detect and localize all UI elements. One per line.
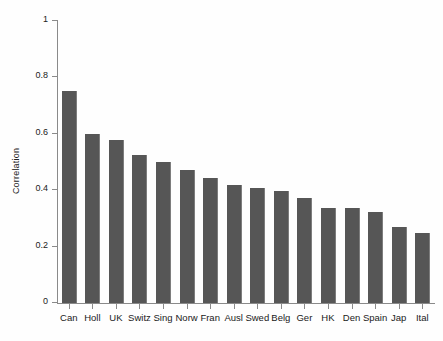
x-tick-mark bbox=[92, 304, 93, 309]
y-tick-mark bbox=[52, 133, 57, 134]
bar bbox=[62, 91, 77, 303]
y-tick-label: 0.2 bbox=[35, 240, 48, 251]
y-tick-mark bbox=[52, 76, 57, 77]
x-tick-label: Swed bbox=[245, 312, 269, 324]
bar bbox=[274, 191, 289, 303]
x-tick-mark bbox=[352, 304, 353, 309]
x-tick-label: HK bbox=[321, 312, 334, 324]
y-tick-label: 0.4 bbox=[35, 183, 48, 194]
x-tick-mark bbox=[257, 304, 258, 309]
y-tick-label: 0.6 bbox=[35, 127, 48, 138]
x-tick-label: Den bbox=[343, 312, 360, 324]
bar bbox=[132, 155, 147, 303]
bar bbox=[85, 134, 100, 303]
y-axis-label: Correlation bbox=[8, 0, 24, 341]
x-tick-mark bbox=[116, 304, 117, 309]
x-tick-mark bbox=[422, 304, 423, 309]
x-tick-label: UK bbox=[109, 312, 122, 324]
bar-chart: Correlation 00.20.40.60.81 CanHollUKSwit… bbox=[0, 0, 443, 341]
bar bbox=[156, 162, 171, 303]
y-tick-label: 1 bbox=[43, 14, 48, 25]
x-tick-label: Ger bbox=[296, 312, 312, 324]
y-tick-mark bbox=[52, 302, 57, 303]
x-tick-mark bbox=[399, 304, 400, 309]
y-tick-mark bbox=[52, 20, 57, 21]
x-tick-label: Switz bbox=[128, 312, 151, 324]
bar bbox=[368, 212, 383, 303]
x-tick-label: Can bbox=[60, 312, 77, 324]
x-tick-mark bbox=[69, 304, 70, 309]
bar bbox=[203, 178, 218, 303]
plot-area bbox=[57, 21, 434, 303]
x-tick-mark bbox=[187, 304, 188, 309]
x-tick-label: Fran bbox=[200, 312, 220, 324]
bar bbox=[109, 140, 124, 303]
x-tick-mark bbox=[281, 304, 282, 309]
x-tick-label: Jap bbox=[391, 312, 406, 324]
x-tick-mark bbox=[139, 304, 140, 309]
x-tick-mark bbox=[304, 304, 305, 309]
y-tick-mark bbox=[52, 189, 57, 190]
bar bbox=[321, 208, 336, 303]
x-tick-label: Ausl bbox=[224, 312, 242, 324]
x-tick-mark bbox=[234, 304, 235, 309]
x-tick-mark bbox=[163, 304, 164, 309]
x-axis-line bbox=[57, 303, 435, 304]
bar bbox=[180, 170, 195, 303]
y-tick-label: 0.8 bbox=[35, 70, 48, 81]
x-tick-label: Spain bbox=[363, 312, 387, 324]
bar bbox=[392, 227, 407, 303]
x-tick-label: Ital bbox=[416, 312, 429, 324]
bar bbox=[250, 188, 265, 303]
x-tick-mark bbox=[328, 304, 329, 309]
bar bbox=[297, 198, 312, 303]
x-tick-label: Norw bbox=[176, 312, 198, 324]
y-axis-label-text: Correlation bbox=[11, 147, 21, 193]
y-tick-label: 0 bbox=[43, 296, 48, 307]
y-tick-mark bbox=[52, 246, 57, 247]
x-tick-label: Holl bbox=[84, 312, 100, 324]
x-tick-mark bbox=[375, 304, 376, 309]
x-tick-mark bbox=[210, 304, 211, 309]
bar bbox=[227, 185, 242, 303]
x-tick-label: Sing bbox=[154, 312, 173, 324]
bar bbox=[345, 208, 360, 303]
bar bbox=[415, 233, 430, 303]
x-tick-label: Belg bbox=[271, 312, 290, 324]
